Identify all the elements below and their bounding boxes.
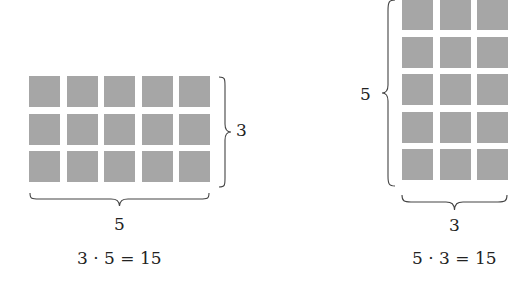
grid-square: [179, 151, 210, 182]
right-equation: 5 · 3 = 15: [412, 250, 497, 267]
grid-square: [440, 149, 471, 180]
grid-square: [440, 0, 471, 30]
grid-square: [29, 151, 60, 182]
grid-square: [402, 112, 433, 143]
grid-square: [179, 114, 210, 145]
grid-square: [402, 149, 433, 180]
grid-square: [440, 112, 471, 143]
grid-square: [402, 74, 433, 105]
grid-square: [477, 149, 508, 180]
grid-square: [142, 151, 173, 182]
grid-square: [104, 151, 135, 182]
grid-square: [402, 0, 433, 30]
grid-square: [440, 37, 471, 68]
grid-square: [67, 151, 98, 182]
grid-square: [179, 76, 210, 107]
grid-square: [29, 76, 60, 107]
right-left-brace: [380, 0, 396, 187]
left-right-brace: [218, 76, 234, 188]
grid-square: [142, 114, 173, 145]
right-bottom-brace: [401, 194, 509, 212]
grid-square: [104, 114, 135, 145]
left-row-count-label: 3: [236, 122, 247, 139]
right-col-count-label: 3: [449, 217, 460, 234]
grid-square: [142, 76, 173, 107]
grid-square: [67, 76, 98, 107]
grid-square: [477, 37, 508, 68]
grid-square: [104, 76, 135, 107]
left-col-count-label: 5: [114, 216, 125, 233]
grid-square: [29, 114, 60, 145]
grid-square: [402, 37, 433, 68]
grid-square: [477, 0, 508, 30]
right-row-count-label: 5: [360, 86, 371, 103]
grid-square: [477, 112, 508, 143]
left-equation: 3 · 5 = 15: [77, 250, 162, 267]
grid-square: [67, 114, 98, 145]
left-bottom-brace: [29, 192, 211, 208]
grid-square: [440, 74, 471, 105]
grid-square: [477, 74, 508, 105]
